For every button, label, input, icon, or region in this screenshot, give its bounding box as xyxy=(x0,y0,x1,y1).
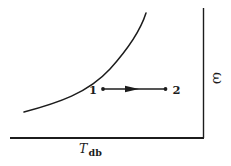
x-axis-label-db-subscript: db xyxy=(89,147,103,158)
y-axis-label-omega: ω xyxy=(209,72,227,84)
state-point-1-dot xyxy=(101,87,105,91)
sketch-canvas: 1 2 T db ω xyxy=(0,0,231,166)
state-label-2: 2 xyxy=(173,83,181,97)
state-label-1: 1 xyxy=(89,83,97,97)
x-axis-label-T: T xyxy=(79,141,89,156)
state-point-2-dot xyxy=(164,87,168,91)
psychrometric-sketch-figure: 1 2 T db ω xyxy=(0,0,231,166)
process-arrowhead-icon xyxy=(125,86,139,92)
saturation-curve xyxy=(24,13,146,112)
